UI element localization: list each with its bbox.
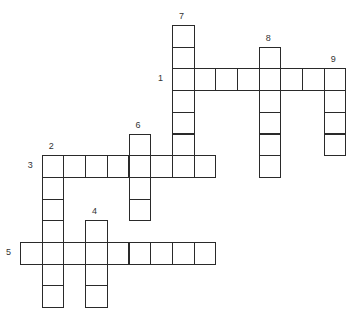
crossword-cell[interactable] — [259, 90, 282, 113]
crossword-cell[interactable] — [259, 112, 282, 135]
crossword-cell[interactable] — [85, 220, 108, 243]
crossword-cell[interactable] — [42, 199, 65, 222]
crossword-cell[interactable] — [324, 134, 347, 157]
crossword-cell[interactable] — [42, 264, 65, 287]
crossword-cell[interactable] — [85, 264, 108, 287]
crossword-cell[interactable] — [259, 134, 282, 157]
crossword-cell[interactable] — [324, 90, 347, 113]
crossword-cell[interactable] — [172, 134, 195, 157]
crossword-cell[interactable] — [85, 285, 108, 308]
crossword-cell[interactable] — [259, 47, 282, 70]
clue-number-3: 3 — [28, 161, 33, 170]
crossword-cell[interactable] — [129, 134, 152, 157]
crossword-cell[interactable] — [129, 177, 152, 200]
crossword-cell[interactable] — [302, 68, 325, 91]
crossword-cell[interactable] — [194, 155, 217, 178]
crossword-cell[interactable] — [85, 242, 108, 265]
crossword-cell[interactable] — [237, 68, 260, 91]
crossword-cell[interactable] — [172, 112, 195, 135]
crossword-cell[interactable] — [42, 220, 65, 243]
crossword-cell[interactable] — [259, 155, 282, 178]
crossword-cell[interactable] — [150, 155, 173, 178]
clue-number-2: 2 — [49, 142, 54, 151]
crossword-cell[interactable] — [194, 68, 217, 91]
crossword-cell[interactable] — [85, 155, 108, 178]
crossword-cell[interactable] — [280, 68, 303, 91]
crossword-cell[interactable] — [215, 68, 238, 91]
crossword-cell[interactable] — [324, 68, 347, 91]
crossword-cell[interactable] — [172, 68, 195, 91]
crossword-cell[interactable] — [42, 177, 65, 200]
crossword-cell[interactable] — [63, 242, 86, 265]
clue-number-6: 6 — [136, 121, 141, 130]
crossword-cell[interactable] — [172, 25, 195, 48]
crossword-cell[interactable] — [107, 155, 130, 178]
crossword-cell[interactable] — [129, 199, 152, 222]
crossword-cell[interactable] — [20, 242, 43, 265]
crossword-cell[interactable] — [150, 242, 173, 265]
clue-number-8: 8 — [266, 34, 271, 43]
crossword-cell[interactable] — [63, 155, 86, 178]
clue-number-1: 1 — [158, 74, 163, 83]
crossword-cell[interactable] — [172, 90, 195, 113]
crossword-cell[interactable] — [42, 155, 65, 178]
crossword-cell[interactable] — [42, 242, 65, 265]
clue-number-5: 5 — [6, 248, 11, 257]
crossword-cell[interactable] — [259, 68, 282, 91]
crossword-cell[interactable] — [194, 242, 217, 265]
crossword-cell[interactable] — [324, 112, 347, 135]
crossword-cell[interactable] — [42, 285, 65, 308]
crossword-cell[interactable] — [172, 47, 195, 70]
crossword-cell[interactable] — [129, 155, 152, 178]
clue-number-7: 7 — [179, 12, 184, 21]
clue-number-4: 4 — [92, 207, 97, 216]
crossword-cell[interactable] — [107, 242, 130, 265]
clue-number-9: 9 — [331, 55, 336, 64]
crossword-grid: 135246789 — [0, 0, 360, 319]
crossword-cell[interactable] — [172, 155, 195, 178]
crossword-cell[interactable] — [172, 242, 195, 265]
crossword-cell[interactable] — [129, 242, 152, 265]
